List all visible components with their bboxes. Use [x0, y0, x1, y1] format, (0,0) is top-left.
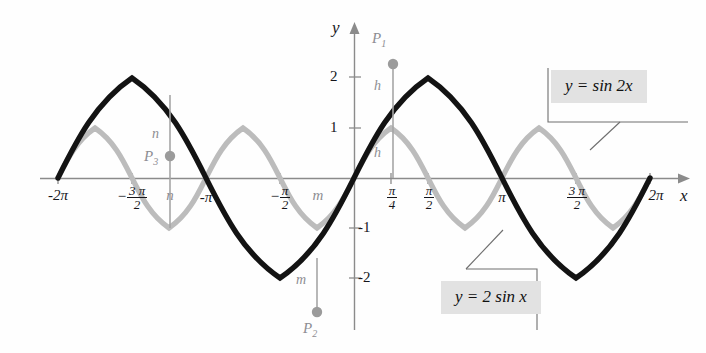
- callout-2-sin-x: y = 2 sin x: [441, 281, 541, 314]
- frac-numerator: π: [387, 184, 398, 198]
- y-tick-1: 1: [330, 119, 338, 136]
- frac-numerator: 3 π: [567, 184, 587, 198]
- segment-label-h-upper: h: [374, 78, 381, 94]
- marker-p3: [165, 95, 175, 228]
- callout-leader-2sinx: [466, 230, 537, 330]
- segment-label-n-upper: n: [152, 126, 159, 142]
- x-tick-pi-2: π2: [415, 184, 443, 211]
- x-tick-neg-2pi: -2π: [34, 188, 82, 204]
- frac-denominator: 2: [424, 198, 435, 211]
- x-axis-label: x: [680, 186, 688, 206]
- minus-sign: −: [117, 188, 127, 204]
- frac-denominator: 2: [127, 198, 147, 211]
- y-axis-label: y: [332, 18, 340, 38]
- x-tick-neg-3pi-2: −3 π2: [106, 184, 158, 211]
- y-tick-neg2: -2: [358, 269, 371, 286]
- frac-numerator: π: [424, 184, 435, 198]
- segment-label-h-lower: h: [374, 145, 381, 161]
- x-tick-neg-pi-2: −π2: [258, 184, 302, 211]
- frac-denominator: 4: [387, 198, 398, 211]
- y-tick-2: 2: [330, 68, 338, 85]
- x-tick-pi-4: π4: [378, 184, 406, 211]
- x-tick-pi: π: [488, 190, 516, 206]
- p2-sub: 2: [312, 328, 317, 339]
- p1-sub: 1: [381, 38, 386, 49]
- marker-p2: [312, 258, 322, 317]
- trig-graph-figure: y x 2 1 -1 -2 -2π −3 π2 n -π −π2 m π4 π2…: [0, 0, 706, 353]
- frac-denominator: 2: [280, 198, 291, 211]
- point-label-p2: P2: [303, 320, 317, 339]
- minus-sign: −: [270, 188, 280, 204]
- x-tick-neg-pi: -π: [184, 190, 228, 206]
- point-label-p3: P3: [144, 148, 158, 167]
- plot-canvas: [0, 0, 706, 353]
- p1-base: P: [372, 30, 381, 46]
- p3-sub: 3: [153, 156, 158, 167]
- point-label-p1: P1: [372, 30, 386, 49]
- segment-label-m-lower: m: [296, 272, 306, 288]
- x-tick-2pi: 2π: [636, 188, 676, 204]
- frac-numerator: π: [280, 184, 291, 198]
- p3-base: P: [144, 148, 153, 164]
- callout-sin-2x: y = sin 2x: [551, 70, 647, 103]
- frac-numerator: 3 π: [127, 184, 147, 198]
- x-tick-3pi-2: 3 π2: [558, 184, 596, 211]
- y-tick-neg1: -1: [358, 219, 371, 236]
- frac-denominator: 2: [567, 198, 587, 211]
- p2-base: P: [303, 320, 312, 336]
